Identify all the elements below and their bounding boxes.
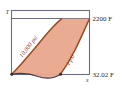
state-point-left xyxy=(10,73,13,76)
y-axis-label: T xyxy=(6,8,10,15)
ts-diagram-svg: T s 2200 F 32.02 F 10,000 psi 1 psi xyxy=(0,0,127,86)
tick-label-lower: 32.02 F xyxy=(93,71,115,79)
tick-label-upper: 2200 F xyxy=(93,15,113,23)
figure-container: T s 2200 F 32.02 F 10,000 psi 1 psi xyxy=(0,0,127,86)
state-point-right xyxy=(59,73,62,76)
